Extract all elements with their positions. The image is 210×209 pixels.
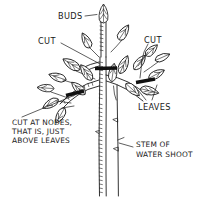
label-leaves: LEAVES	[138, 102, 171, 112]
leader-cut-at-nodes	[22, 95, 75, 117]
cut-mark-center	[95, 68, 117, 69]
leaf-stem-right	[108, 63, 119, 83]
label-cut-at-nodes-line2: THAT IS, JUST	[11, 127, 65, 136]
leaf-secondary-stem	[154, 51, 171, 64]
label-buds: BUDS	[58, 11, 83, 21]
label-cut-left: CUT	[38, 36, 56, 46]
leader-buds	[85, 15, 97, 17]
diagram-canvas: BUDS CUT CUT LEAVES CUT AT NODES, THAT I…	[0, 0, 210, 209]
bud-upper-right	[116, 23, 132, 42]
bud-terminal	[99, 4, 108, 23]
bud-stalk-upper-right	[111, 40, 122, 52]
leaf-left-2	[48, 71, 68, 84]
bud-stalk-upper-left	[89, 47, 99, 57]
leaf-mid-right-1	[116, 54, 132, 75]
leaf-left-4	[41, 96, 60, 112]
label-cut-at-nodes-line1: CUT AT NODES,	[12, 118, 72, 127]
main-stem	[96, 18, 107, 196]
leaf-left-1	[61, 55, 83, 73]
secondary-stem	[113, 85, 124, 196]
pruning-diagram: BUDS CUT CUT LEAVES CUT AT NODES, THAT I…	[0, 0, 210, 209]
label-cut-at-nodes-line3: ABOVE LEAVES	[12, 136, 70, 145]
leader-stem-of-water-shoot	[119, 143, 133, 147]
bud-upper-left	[79, 31, 94, 49]
cut-mark-right	[136, 79, 155, 83]
label-stem-of-water-shoot-line2: WATER SHOOT	[136, 150, 193, 159]
label-cut-right: CUT	[144, 35, 162, 45]
leaf-left-3	[37, 84, 54, 93]
label-stem-of-water-shoot-line1: STEM OF	[136, 140, 170, 149]
